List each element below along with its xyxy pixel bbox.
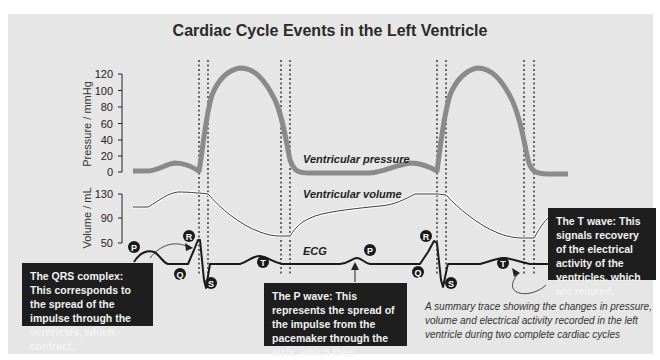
svg-text:P: P	[367, 246, 373, 256]
pressure-axis: 120 100 80 60 40 20 0 Pressure / mmHg	[81, 68, 122, 178]
figure-caption: A summary trace showing the changes in p…	[425, 300, 655, 342]
svg-text:S: S	[448, 279, 454, 289]
pressure-axis-label: Pressure / mmHg	[81, 81, 93, 167]
svg-text:S: S	[208, 279, 214, 289]
pressure-tick: 80	[101, 101, 113, 113]
arrow-qrs	[150, 243, 193, 258]
ecg-marker-q: Q	[174, 268, 186, 280]
svg-text:T: T	[260, 258, 266, 268]
callout-t-wave: The T wave: This signals recovery of the…	[548, 208, 656, 280]
volume-tick: 50	[101, 237, 113, 249]
callout-p-wave: The P wave: This represents the spread o…	[264, 283, 407, 346]
pressure-tick: 40	[101, 134, 113, 146]
label-ventricular-volume: Ventricular volume	[303, 188, 402, 200]
event-lines	[199, 60, 534, 275]
svg-text:T: T	[500, 259, 506, 269]
ecg-marker-s: S	[445, 277, 457, 289]
ecg-marker-t: T	[497, 257, 509, 269]
ecg-marker-p: P	[128, 241, 140, 253]
label-ecg: ECG	[303, 245, 327, 257]
pressure-tick: 100	[95, 85, 113, 97]
volume-axis: 130 90 50 Volume / mL	[81, 187, 122, 249]
svg-text:R: R	[423, 232, 430, 242]
ecg-marker-r: R	[183, 230, 195, 242]
ecg-marker-t: T	[257, 256, 269, 268]
svg-text:Q: Q	[414, 268, 421, 278]
volume-tick: 130	[95, 188, 113, 200]
volume-tick: 90	[101, 212, 113, 224]
ecg-trace	[134, 240, 560, 288]
ecg-marker-s: S	[205, 277, 217, 289]
arrow-p-wave	[351, 262, 359, 282]
ecg-marker-q: Q	[412, 266, 424, 278]
pressure-tick: 20	[101, 150, 113, 162]
arrow-t-wave	[512, 268, 546, 294]
svg-text:Q: Q	[176, 270, 183, 280]
pressure-tick: 0	[107, 166, 113, 178]
ecg-marker-p: P	[364, 244, 376, 256]
pressure-tick: 60	[101, 118, 113, 130]
ecg-marker-r: R	[420, 230, 432, 242]
pressure-tick: 120	[95, 68, 113, 80]
volume-axis-label: Volume / mL	[81, 187, 93, 248]
svg-text:R: R	[186, 232, 193, 242]
callout-qrs-complex: The QRS complex: This corresponds to the…	[22, 263, 153, 326]
label-ventricular-pressure: Ventricular pressure	[303, 153, 410, 165]
svg-text:P: P	[131, 243, 137, 253]
